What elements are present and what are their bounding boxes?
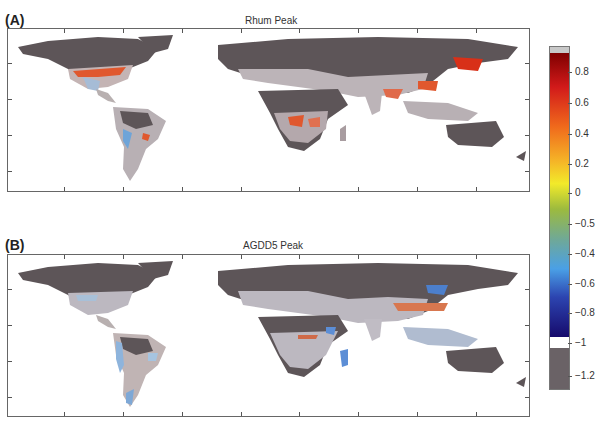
panel-b-label: (B)	[5, 237, 24, 253]
colorbar-tick-label: 0.8	[575, 66, 589, 77]
colorbar-tick-label: 0.2	[575, 158, 589, 169]
map-panel-b	[7, 254, 530, 417]
colorbar-tick-label: 0.6	[575, 97, 589, 108]
colorbar	[549, 46, 570, 390]
colorbar-tick-label: −1.2	[575, 370, 595, 381]
colorbar-tick-label: −0.5	[575, 218, 595, 229]
colorbar-tick-label: 0	[575, 187, 581, 198]
panel-a-title: Rhum Peak	[245, 15, 297, 26]
world-map-a	[8, 29, 529, 191]
colorbar-tick-label: −0.6	[575, 278, 595, 289]
world-map-b	[8, 255, 529, 416]
colorbar-tick-label: 0.4	[575, 128, 589, 139]
colorbar-gradient	[550, 47, 569, 389]
panel-b-title: AGDD5 Peak	[243, 240, 303, 251]
colorbar-tick-label: −1	[575, 337, 586, 348]
colorbar-tick-label: −0.8	[575, 307, 595, 318]
map-panel-a	[7, 28, 530, 192]
panel-a-label: (A)	[5, 12, 24, 28]
colorbar-tick-label: −0.4	[575, 248, 595, 259]
